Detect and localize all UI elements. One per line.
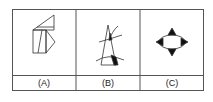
- label-b: (B): [76, 76, 140, 91]
- figure-a-icon: [33, 15, 55, 53]
- figure-c-icon: [156, 28, 188, 56]
- figure-b-icon: [96, 25, 124, 65]
- figure-options-table: (A) (B) (C): [12, 9, 204, 91]
- label-c: (C): [140, 76, 204, 91]
- label-a: (A): [12, 76, 76, 91]
